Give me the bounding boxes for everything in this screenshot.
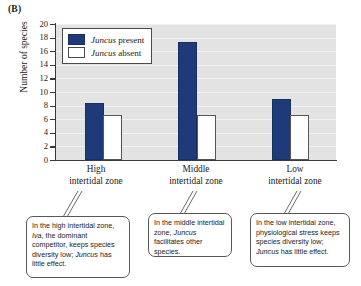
callout-high-zone: In the high intertidal zone, Iva, the do… xyxy=(26,216,130,278)
callout-low-segment-2: has little effect. xyxy=(279,247,329,256)
callout-high-segment-3: Juncus xyxy=(75,250,98,259)
callout-middle-segment-1: Juncus xyxy=(174,228,197,237)
callout-middle-segment-2: facilitates other species. xyxy=(154,237,202,256)
callout-low-segment-1: Juncus xyxy=(256,247,279,256)
callout-high-segment-0: In the high intertidal zone, xyxy=(32,221,114,230)
leader-line-middle-a xyxy=(180,191,193,214)
callout-high-segment-1: Iva xyxy=(32,231,42,240)
leader-line-high-b xyxy=(67,191,82,217)
figure-panel-b: (B) Number of species 20181614121086420 … xyxy=(0,0,361,286)
leader-line-middle-b xyxy=(184,191,197,214)
callout-middle-zone: In the middle intertidal zone, Juncus fa… xyxy=(148,213,232,257)
leader-line-low-a xyxy=(284,191,297,214)
leader-line-high-a xyxy=(63,191,78,217)
callout-low-segment-0: In the low intertidal zone, physiologica… xyxy=(256,218,340,246)
leader-line-low-b xyxy=(288,191,301,214)
callout-low-zone: In the low intertidal zone, physiologica… xyxy=(250,213,350,267)
